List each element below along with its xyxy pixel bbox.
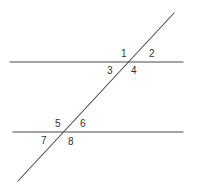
- angle-label-4: 4: [131, 65, 137, 76]
- angle-label-5: 5: [55, 118, 61, 129]
- angle-label-7: 7: [41, 135, 47, 146]
- angle-label-2: 2: [149, 48, 155, 59]
- parallel-lines-transversal-diagram: 1 2 3 4 5 6 7 8: [0, 0, 200, 190]
- angle-label-3: 3: [107, 65, 113, 76]
- angle-label-8: 8: [68, 136, 74, 147]
- transversal-line: [18, 13, 174, 181]
- angle-label-6: 6: [80, 118, 86, 129]
- angle-label-1: 1: [121, 48, 127, 59]
